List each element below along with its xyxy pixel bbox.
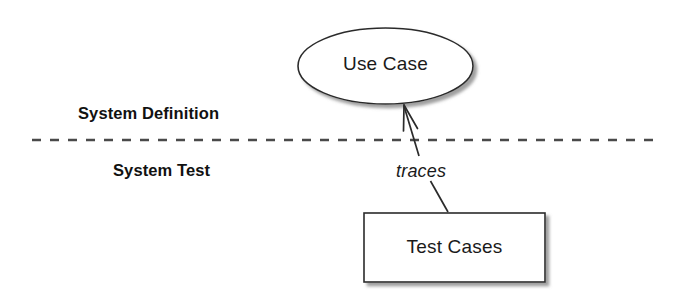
traceability-diagram: Use Case Test Cases System Definition Sy… xyxy=(0,0,685,302)
test-cases-node[interactable] xyxy=(364,213,545,282)
use-case-ellipse[interactable] xyxy=(298,28,473,104)
traces-edge-upper-segment[interactable] xyxy=(404,106,419,156)
traces-edge-lower-segment[interactable] xyxy=(431,181,449,212)
use-case-node[interactable] xyxy=(298,28,473,104)
test-cases-rectangle[interactable] xyxy=(364,213,545,282)
diagram-canvas xyxy=(0,0,685,302)
